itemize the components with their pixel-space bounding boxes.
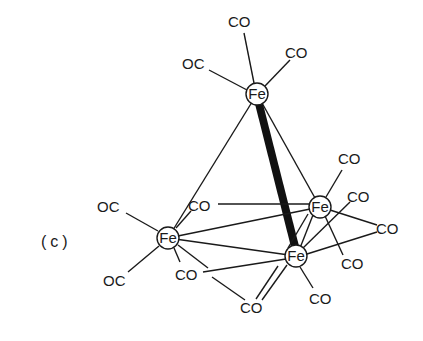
ligand-labels: CO CO OC OC OC CO CO CO CO CO CO CO CO (97, 13, 399, 316)
bond-right-co-top (326, 170, 342, 197)
bond-left-bottom-co (178, 245, 208, 268)
bond-co-lower-febottom (203, 259, 286, 272)
ligand-top-oc-left: OC (182, 55, 205, 72)
bond-fetop-febottom-wedge (254, 100, 300, 251)
bond-top-co-up (244, 33, 254, 83)
bond-feright-febottom-a (300, 215, 313, 248)
bond-right-co-far (330, 210, 377, 225)
ligand-bottom-co: CO (309, 290, 332, 307)
bond-left-co-lower (174, 248, 180, 262)
ligand-bridge-co-bottom: CO (240, 299, 263, 316)
bond-bottom-co (300, 267, 313, 288)
ligand-bridge-co-lower: CO (175, 266, 198, 283)
metal-metal-bonds (168, 94, 320, 256)
bond-left-oc-up (126, 213, 158, 231)
bond-right-co-low (325, 216, 343, 255)
bond-top-oc-left (209, 70, 247, 90)
bond-bottom-co-far (307, 232, 377, 254)
ligand-bridge-co-upper: CO (188, 197, 211, 214)
ligand-right-co-top: CO (338, 150, 361, 167)
fe-atom-top: Fe (246, 83, 268, 105)
fe-atom-left: Fe (157, 227, 179, 249)
ligand-right-co-far: CO (376, 220, 399, 237)
fe-right-label: Fe (311, 198, 329, 215)
ligand-top-co-right: CO (285, 44, 308, 61)
ligand-top-co-up: CO (228, 13, 251, 30)
bond-feleft-febottom (168, 238, 296, 256)
fe-atom-bottom: Fe (285, 245, 307, 267)
ligand-left-oc-up: OC (97, 198, 120, 215)
panel-label: (c) (41, 233, 72, 250)
fe-left-label: Fe (159, 229, 177, 246)
fe-top-label: Fe (248, 85, 266, 102)
fe4-co13-cluster-diagram: Fe Fe Fe Fe CO CO OC OC OC CO CO CO CO C… (0, 0, 423, 341)
bond-fetop-feleft (168, 94, 257, 238)
bond-fetop-feright (257, 94, 320, 207)
fe-atom-right: Fe (309, 196, 331, 218)
ligand-right-co-mid: CO (347, 188, 370, 205)
bond-left-oc-down (128, 246, 159, 272)
bond-top-co-right (265, 60, 290, 86)
bond-cobottom-left (212, 277, 245, 300)
fe-bottom-label: Fe (287, 247, 305, 264)
ligand-left-oc-down: OC (103, 272, 126, 289)
ligand-right-co-low: CO (341, 255, 364, 272)
